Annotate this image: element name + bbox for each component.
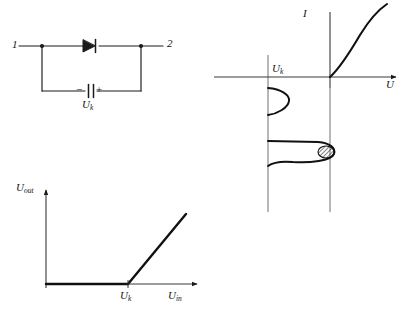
battery-minus-sign: − [76,84,82,95]
diode-symbol [83,40,96,53]
transfer-y-subscript: out [24,186,34,195]
transfer-knee-symbol: U [120,289,128,301]
node-dot-right [139,44,143,48]
transfer-y-axis-label: Uout [16,182,34,193]
iu-knee-subscript: k [280,67,283,76]
figure-canvas: 1 2 − + Uk I U Uk Uout Uk Uin [0,0,413,314]
battery-voltage-subscript: k [90,103,93,112]
battery-voltage-symbol: U [82,98,90,110]
iu-characteristic-chart [214,4,396,212]
battery-plus-sign: + [96,84,102,95]
iu-shaded-lobe-tip [318,146,334,158]
battery-voltage-label: Uk [82,99,93,110]
transfer-knee-voltage-label: Uk [120,290,131,301]
iu-knee-symbol: U [272,62,280,74]
iu-input-waveform [268,88,289,115]
transfer-x-axis-label: Uin [168,290,182,301]
iu-x-axis-label: U [386,79,394,90]
transfer-rising-segment [128,214,186,284]
iu-y-axis-label: I [303,8,307,19]
iu-knee-voltage-label: Uk [272,63,283,74]
node-dot-left [40,44,44,48]
circuit-diagram [19,40,163,98]
circuit-terminal-right-label: 2 [167,38,173,49]
figure-vector-layer [0,0,413,314]
transfer-characteristic-chart [46,190,197,288]
iu-forward-curve [330,4,387,77]
transfer-x-symbol: U [168,289,176,301]
transfer-x-subscript: in [176,294,182,303]
transfer-y-symbol: U [16,181,24,193]
circuit-terminal-left-label: 1 [12,39,18,50]
battery-symbol [89,85,94,98]
transfer-knee-subscript: k [128,294,131,303]
